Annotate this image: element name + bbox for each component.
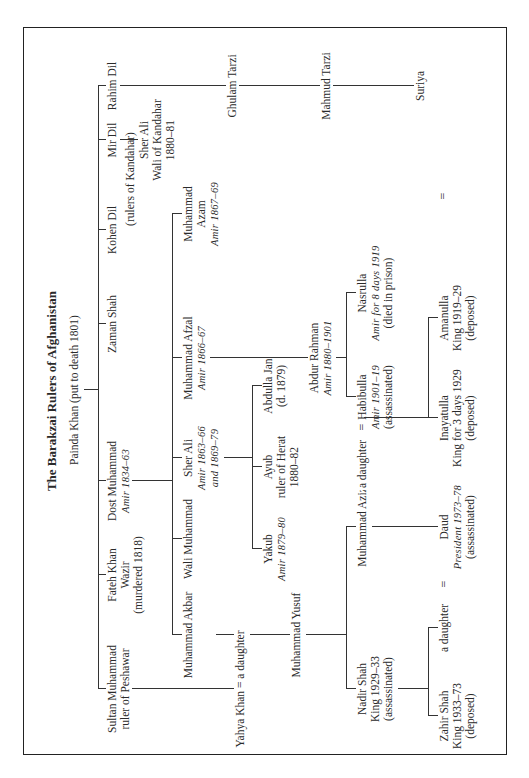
person-abdulla-jan: Abdulla Jan(d. 1879) <box>262 356 288 415</box>
connector <box>84 389 98 390</box>
connector <box>346 688 356 689</box>
connector <box>364 417 428 418</box>
connector <box>98 574 106 575</box>
connector <box>132 688 234 689</box>
person-zaman-shah: Zaman Shah <box>106 293 119 355</box>
connector <box>224 457 252 458</box>
connector <box>252 466 262 467</box>
person-habibulla: HabibullaAmir 1901–19(assassinated) <box>356 363 395 431</box>
person-wali-muhammad: Wali Muhammad <box>182 497 195 581</box>
tarzi-line <box>120 85 414 86</box>
connector <box>98 85 106 86</box>
marriage-symbol-daud: = <box>437 581 452 588</box>
person-nadir-shah: Nadir ShahKing 1929–33(assassinated) <box>356 654 395 724</box>
person-sher-ali-kandahar: Sher AliWali of Kandahar1880–81 <box>138 97 177 182</box>
person-yakub: YakubAmir 1879–80 <box>262 515 288 583</box>
connector <box>250 634 290 635</box>
connector <box>372 526 438 527</box>
person-muhammad-aziz: Muhammad Aziz <box>356 485 369 569</box>
person-amanulla: AmanullaKing 1919–29(deposed) <box>438 283 477 353</box>
gen1-bar <box>98 86 99 689</box>
connector <box>306 634 346 635</box>
connector <box>252 385 262 386</box>
genealogy-chart: The Barakzai Rulers of Afghanistan Paind… <box>23 27 507 755</box>
chart-title: The Barakzai Rulers of Afghanistan <box>44 28 60 754</box>
connector <box>346 526 356 527</box>
connector <box>210 357 308 358</box>
connector <box>172 213 182 214</box>
person-kohen-dil: Kohen Dil <box>106 204 119 256</box>
person-ghulam-tarzi: Ghulam Tarzi <box>226 52 239 119</box>
connector <box>428 627 438 628</box>
connector <box>428 317 438 318</box>
connector <box>98 323 106 324</box>
marriage-symbol: = <box>355 424 370 431</box>
person-ayub: Ayubruler of Herat1880–82 <box>262 434 301 501</box>
marriage-yahya-khan: Yahya Khan = a daughter <box>234 628 247 749</box>
connector <box>346 292 356 293</box>
connector <box>172 538 182 539</box>
kandahar-note: (rulers of Kandahar) <box>124 130 137 228</box>
person-rahim-dil: Rahim Dil <box>106 60 119 112</box>
connector <box>98 480 106 481</box>
person-nadir-daughter: a daughter <box>438 602 451 654</box>
person-suriya: Suriya <box>414 69 427 103</box>
marriage-symbol-suriya: = <box>436 193 451 200</box>
abdur-children-bar <box>346 293 347 397</box>
dost-children-bar <box>172 214 173 635</box>
person-daud: DaudPresident 1973–78(assassinated) <box>438 483 477 571</box>
person-mahmud-tarzi: Mahmud Tarzi <box>320 50 333 122</box>
connector <box>428 417 438 418</box>
root-painda-khan: Painda Khan (put to death 1801) <box>68 313 81 467</box>
connector <box>346 396 356 397</box>
person-sher-ali: Sher AliAmir 1863–66and 1869–79 <box>182 424 221 492</box>
sher-ali-children-bar <box>252 386 253 549</box>
person-muhammad-azam: MuhammadAzamAmir 1867–69 <box>182 180 221 248</box>
connector <box>98 139 106 140</box>
connector <box>398 688 428 689</box>
connector <box>120 139 138 140</box>
connector <box>428 715 438 716</box>
connector <box>172 357 182 358</box>
connector <box>252 548 262 549</box>
person-muhammad-yusuf: Muhammad Yusuf <box>290 591 303 680</box>
connector <box>98 688 106 689</box>
connector <box>336 357 346 358</box>
person-fateh-khan: Fateh KhanWazir(murdered 1818) <box>106 534 145 616</box>
connector <box>98 229 106 230</box>
habibulla-children-bar <box>428 318 429 418</box>
person-nasrulla: NasrullaAmir for 8 days 1919(died in pri… <box>356 243 395 342</box>
person-muhammad-akbar: Muhammad Akbar <box>182 590 195 681</box>
person-abdur-rahman: Abdur RahmanAmir 1880–1901 <box>308 318 334 397</box>
yusuf-children-bar <box>346 527 347 689</box>
person-yusuf-daughter: a daughter <box>356 438 369 490</box>
nadir-children-bar <box>428 628 429 716</box>
connector <box>172 634 182 635</box>
connector <box>172 457 182 458</box>
person-sultan-muhammad: Sultan Muhammadruler of Peshawar <box>106 643 132 735</box>
connector <box>216 634 234 635</box>
connector <box>132 480 172 481</box>
person-zahir-shah: Zahir ShahKing 1933–73(deposed) <box>438 681 477 751</box>
person-inayatulla: InayatullaKing for 3 days 1929(deposed) <box>438 367 477 469</box>
person-dost-muhammad: Dost MuhammadAmir 1834–63 <box>106 439 132 523</box>
person-muhammad-afzal: Muhammad AfzalAmir 1866–67 <box>182 314 208 401</box>
person-mir-dil: Mir Dil <box>106 121 119 160</box>
